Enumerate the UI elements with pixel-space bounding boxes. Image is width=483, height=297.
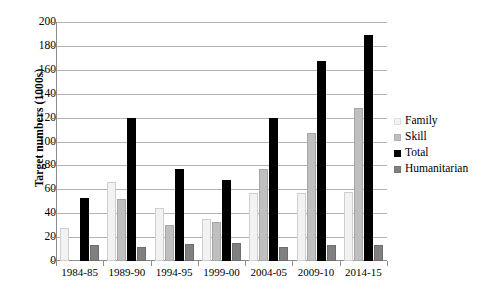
bar-family-1989-90: [107, 182, 116, 261]
legend-label: Humanitarian: [405, 163, 468, 175]
x-tick-label-2014-15: 2014-15: [340, 266, 387, 278]
bar-family-1999-00: [202, 219, 211, 261]
x-tick-mark: [387, 261, 388, 266]
legend-item-total[interactable]: Total: [394, 145, 482, 161]
legend-item-family[interactable]: Family: [394, 113, 482, 129]
bar-family-1994-95: [155, 208, 164, 261]
bar-skill-2014-15: [354, 108, 363, 261]
bar-group-2014-15: [340, 22, 387, 261]
bar-humanitarian-1989-90: [137, 247, 146, 261]
legend-swatch-humanitarian-icon: [394, 166, 401, 173]
legend: FamilySkillTotalHumanitarian: [394, 113, 482, 177]
bar-group-1994-95: [151, 22, 198, 261]
y-axis-ticks: 200180160140120100806040200: [0, 0, 56, 297]
y-tick-mark: [50, 70, 55, 71]
y-tick-mark: [50, 237, 55, 238]
bar-total-1984-85: [80, 198, 89, 261]
bar-humanitarian-2004-05: [279, 247, 288, 261]
bar-skill-2004-05: [259, 169, 268, 261]
x-tick-label-1989-90: 1989-90: [103, 266, 150, 278]
y-tick-mark: [50, 165, 55, 166]
bar-humanitarian-2014-15: [374, 245, 383, 261]
bar-group-1999-00: [198, 22, 245, 261]
legend-item-humanitarian[interactable]: Humanitarian: [394, 161, 482, 177]
bar-group-1984-85: [56, 22, 103, 261]
x-tick-label-2004-05: 2004-05: [245, 266, 292, 278]
bar-total-2014-15: [364, 35, 373, 261]
y-tick-mark: [50, 22, 55, 23]
bar-group-2004-05: [245, 22, 292, 261]
bar-skill-1994-95: [165, 225, 174, 261]
bar-total-2004-05: [269, 118, 278, 261]
bar-skill-1989-90: [117, 199, 126, 261]
bar-humanitarian-1984-85: [90, 245, 99, 261]
bar-groups: [56, 22, 387, 261]
x-tick-label-1984-85: 1984-85: [56, 266, 103, 278]
bar-humanitarian-1999-00: [232, 243, 241, 261]
bar-humanitarian-1994-95: [185, 244, 194, 261]
bar-total-1999-00: [222, 180, 231, 261]
x-axis-labels: 1984-851989-901994-951999-002004-052009-…: [56, 266, 387, 278]
bar-family-2009-10: [297, 193, 306, 261]
legend-swatch-total-icon: [394, 150, 401, 157]
bar-total-1994-95: [175, 169, 184, 261]
legend-swatch-skill-icon: [394, 134, 401, 141]
x-tick-label-2009-10: 2009-10: [292, 266, 339, 278]
legend-item-skill[interactable]: Skill: [394, 129, 482, 145]
plot-area: [56, 22, 387, 261]
legend-swatch-family-icon: [394, 118, 401, 125]
y-tick-mark: [50, 46, 55, 47]
bar-group-2009-10: [292, 22, 339, 261]
y-tick-mark: [50, 94, 55, 95]
legend-label: Skill: [405, 131, 427, 143]
bar-humanitarian-2009-10: [327, 245, 336, 261]
bar-skill-2009-10: [307, 133, 316, 261]
y-tick-mark: [50, 189, 55, 190]
bar-skill-1999-00: [212, 222, 221, 261]
y-tick-mark: [50, 118, 55, 119]
y-tick-mark: [50, 142, 55, 143]
bar-chart: Target numbers (1000s) 20018016014012010…: [0, 0, 483, 297]
y-tick-mark: [50, 261, 55, 262]
bar-total-2009-10: [317, 61, 326, 261]
bar-total-1989-90: [127, 118, 136, 261]
x-tick-label-1994-95: 1994-95: [151, 266, 198, 278]
bar-family-2004-05: [249, 193, 258, 261]
legend-label: Total: [405, 147, 428, 159]
legend-label: Family: [405, 115, 438, 127]
x-tick-label-1999-00: 1999-00: [198, 266, 245, 278]
bar-family-1984-85: [60, 228, 69, 261]
bar-group-1989-90: [103, 22, 150, 261]
bar-family-2014-15: [344, 192, 353, 261]
y-tick-mark: [50, 213, 55, 214]
